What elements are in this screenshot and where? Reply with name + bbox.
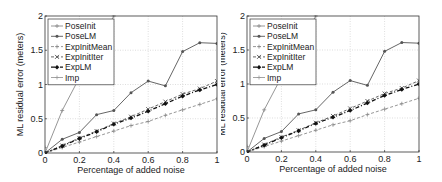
x-tick-label: 0.8 xyxy=(176,155,189,165)
x-tick-label: 0.2 xyxy=(73,155,86,165)
legend: PoseInitPoseLMExpInitMeanExpInitIterExpL… xyxy=(48,19,114,85)
legend-label: ExpInitIter xyxy=(65,52,103,62)
legend-label: ExpInitIter xyxy=(267,52,305,62)
legend-label: PoseInit xyxy=(65,21,96,31)
legend-label: PoseLM xyxy=(65,31,96,41)
legend-label: Imp xyxy=(267,73,281,83)
x-tick-label: 0.6 xyxy=(344,154,357,164)
x-axis-label: Percentage of added noise xyxy=(77,165,185,175)
legend-label: PoseLM xyxy=(267,31,298,41)
legend-label: ExpLM xyxy=(267,62,293,72)
y-tick-label: 2 xyxy=(38,11,43,21)
y-axis-label: ML residual error (meters) xyxy=(221,32,227,136)
y-tick-label: 1.5 xyxy=(30,45,43,55)
y-tick-label: 0 xyxy=(38,148,43,158)
legend: PoseInitPoseLMExpInitMeanExpInitIterExpL… xyxy=(250,19,316,85)
y-axis-label: ML residual error (meters) xyxy=(15,33,25,137)
legend-label: ExpInitMean xyxy=(267,42,315,52)
legend-label: ExpInitMean xyxy=(65,42,113,52)
y-tick-label: 0.5 xyxy=(232,113,245,123)
x-tick-label: 0 xyxy=(244,154,249,164)
legend-label: PoseInit xyxy=(267,21,298,31)
y-tick-label: 1 xyxy=(240,79,245,89)
legend-label: ExpLM xyxy=(65,62,91,72)
x-tick-label: 0.8 xyxy=(378,154,391,164)
legend-label: Imp xyxy=(65,73,79,83)
chart-left-svg: 00.20.40.60.8100.511.52Percentage of add… xyxy=(0,0,221,182)
x-tick-label: 0.4 xyxy=(310,154,323,164)
x-tick-label: 0.4 xyxy=(108,155,121,165)
y-tick-label: 0 xyxy=(240,147,245,157)
chart-right-svg: 00.20.40.60.8100.511.52Percentage of add… xyxy=(221,0,442,182)
chart-right: 00.20.40.60.8100.511.52Percentage of add… xyxy=(221,0,442,182)
y-tick-label: 1.5 xyxy=(232,45,245,55)
x-tick-label: 0 xyxy=(42,155,47,165)
x-tick-label: 0.6 xyxy=(142,155,155,165)
y-tick-label: 1 xyxy=(38,80,43,90)
y-tick-label: 0.5 xyxy=(30,114,43,124)
x-tick-label: 0.2 xyxy=(275,154,288,164)
chart-left: 00.20.40.60.8100.511.52Percentage of add… xyxy=(0,0,221,182)
x-tick-label: 1 xyxy=(416,154,421,164)
x-tick-label: 1 xyxy=(214,155,219,165)
x-axis-label: Percentage of added noise xyxy=(279,164,387,174)
y-tick-label: 2 xyxy=(240,11,245,21)
